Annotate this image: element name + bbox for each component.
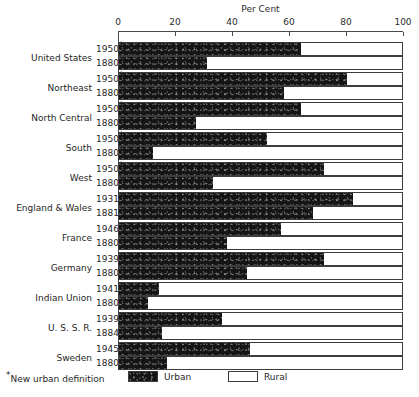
- x-axis-tick-label: 40: [226, 17, 237, 27]
- chart-group: United States1950*1880: [0, 42, 419, 70]
- x-axis-tick-label: 80: [340, 17, 351, 27]
- x-axis-tick-label: 20: [169, 17, 180, 27]
- chart-row: 1931: [0, 192, 419, 206]
- bar-segment-urban: [119, 313, 222, 325]
- chart-row: 1950*: [0, 72, 419, 86]
- legend-label-urban: Urban: [164, 372, 191, 382]
- chart-row: 1939: [0, 312, 419, 326]
- footnote-text: New urban definition: [11, 374, 105, 384]
- row-year-label: 1880: [96, 148, 116, 158]
- bar-segment-urban: [119, 177, 213, 189]
- row-year-label: 1881: [96, 208, 116, 218]
- bar-segment-urban: [119, 73, 347, 85]
- row-year-label: 1931: [96, 194, 116, 204]
- chart-group: South1950*1880: [0, 132, 419, 160]
- chart-row: 1950*: [0, 102, 419, 116]
- bar-track-rural: [118, 222, 403, 236]
- bar-track-rural: [118, 162, 403, 176]
- x-axis-line: [118, 31, 403, 32]
- legend-label-rural: Rural: [264, 372, 287, 382]
- urbanization-bar-chart: Per Cent 020406080100 United States1950*…: [0, 0, 419, 397]
- chart-row: 1880: [0, 266, 419, 280]
- bar-track-rural: [118, 176, 403, 190]
- chart-group: North Central1950*1880: [0, 102, 419, 130]
- bar-segment-urban: [119, 297, 148, 309]
- bar-track-rural: [118, 116, 403, 130]
- bar-track-rural: [118, 282, 403, 296]
- bar-track-rural: [118, 312, 403, 326]
- chart-group: England & Wales19311881: [0, 192, 419, 220]
- bar-segment-urban: [119, 117, 196, 129]
- legend-swatch-urban-icon: [128, 371, 158, 382]
- bar-track-rural: [118, 342, 403, 356]
- bar-track-rural: [118, 72, 403, 86]
- row-year-label: 1880: [96, 238, 116, 248]
- row-year-label: 1880: [96, 268, 116, 278]
- bar-track-rural: [118, 356, 403, 370]
- legend-item-rural: Rural: [228, 371, 287, 382]
- chart-row: 1880: [0, 86, 419, 100]
- plot-area: United States1950*1880Northeast1950*1880…: [0, 36, 419, 366]
- bar-segment-urban: [119, 57, 207, 69]
- bar-track-rural: [118, 236, 403, 250]
- bar-track-rural: [118, 252, 403, 266]
- chart-footnote: *New urban definition: [6, 374, 105, 384]
- row-year-label: 1941: [96, 284, 116, 294]
- bar-track-rural: [118, 86, 403, 100]
- chart-row: 1950*: [0, 162, 419, 176]
- chart-row: 1946: [0, 222, 419, 236]
- bar-track-rural: [118, 266, 403, 280]
- legend-swatch-rural-icon: [228, 371, 258, 382]
- x-axis-tick-labels: 020406080100: [0, 17, 419, 29]
- bar-track-rural: [118, 326, 403, 340]
- row-year-label: 1950*: [96, 74, 116, 84]
- chart-group: U. S. S. R.19391884: [0, 312, 419, 340]
- chart-row: 1880: [0, 296, 419, 310]
- x-axis-tick-label: 0: [115, 17, 121, 27]
- bar-segment-urban: [119, 163, 324, 175]
- row-year-label: 1880: [96, 178, 116, 188]
- chart-group: Indian Union19411880: [0, 282, 419, 310]
- bar-segment-urban: [119, 103, 301, 115]
- bar-segment-urban: [119, 283, 159, 295]
- bar-track-rural: [118, 56, 403, 70]
- row-year-label: 1880: [96, 298, 116, 308]
- bar-track-rural: [118, 132, 403, 146]
- chart-group: West1950*1880: [0, 162, 419, 190]
- chart-group: France19461880: [0, 222, 419, 250]
- bar-segment-urban: [119, 357, 167, 369]
- chart-row: 1880: [0, 146, 419, 160]
- bar-track-rural: [118, 42, 403, 56]
- bar-segment-urban: [119, 253, 324, 265]
- chart-row: 1880: [0, 56, 419, 70]
- row-year-label: 1880: [96, 58, 116, 68]
- row-year-label: 1939: [96, 254, 116, 264]
- chart-group: Sweden19451880: [0, 342, 419, 370]
- bar-segment-urban: [119, 327, 162, 339]
- bar-segment-urban: [119, 267, 247, 279]
- row-year-label: 1880: [96, 118, 116, 128]
- bar-track-rural: [118, 192, 403, 206]
- chart-group: Germany19391880: [0, 252, 419, 280]
- bar-track-rural: [118, 102, 403, 116]
- chart-row: 1880: [0, 176, 419, 190]
- row-year-label: 1939: [96, 314, 116, 324]
- chart-row: 1945: [0, 342, 419, 356]
- row-year-label: 1950*: [96, 104, 116, 114]
- chart-row: 1880: [0, 116, 419, 130]
- chart-row: 1941: [0, 282, 419, 296]
- chart-title: Per Cent: [118, 4, 403, 14]
- bar-track-rural: [118, 296, 403, 310]
- chart-row: 1950*: [0, 132, 419, 146]
- chart-group: Northeast1950*1880: [0, 72, 419, 100]
- bar-segment-urban: [119, 87, 284, 99]
- row-year-label: 1950*: [96, 44, 116, 54]
- bar-segment-urban: [119, 207, 313, 219]
- legend-item-urban: Urban: [128, 371, 191, 382]
- chart-row: 1880: [0, 236, 419, 250]
- chart-row: 1880: [0, 356, 419, 370]
- row-year-label: 1950*: [96, 134, 116, 144]
- chart-row: 1881: [0, 206, 419, 220]
- bar-segment-urban: [119, 237, 227, 249]
- row-year-label: 1884: [96, 328, 116, 338]
